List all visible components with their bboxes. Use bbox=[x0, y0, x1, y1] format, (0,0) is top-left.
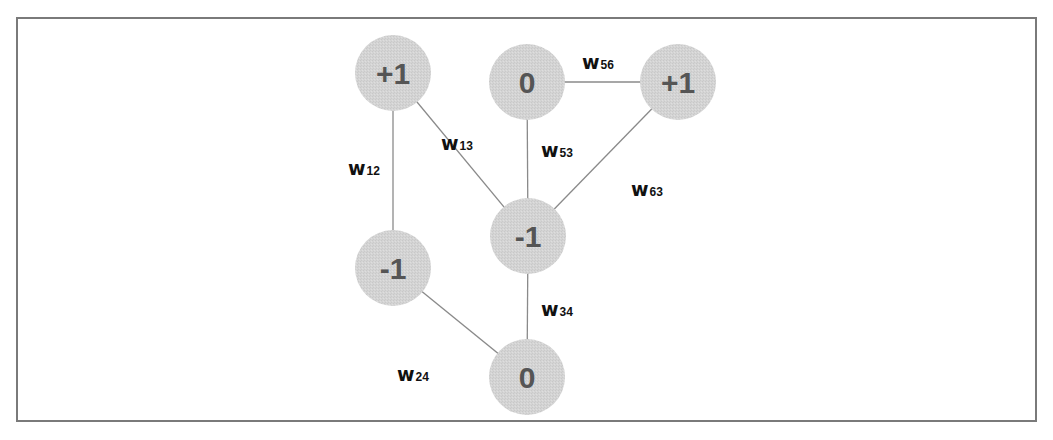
edge-label-subscript: 56 bbox=[601, 58, 615, 72]
edge-label-w34: w34 bbox=[541, 298, 573, 320]
node-4: 0 bbox=[489, 339, 565, 415]
node-state-label: +1 bbox=[376, 57, 410, 90]
node-state-label: -1 bbox=[515, 220, 542, 253]
edge-label-subscript: 13 bbox=[460, 139, 474, 153]
node-state-label: -1 bbox=[380, 252, 407, 285]
node-2: -1 bbox=[355, 230, 431, 306]
edge-label-subscript: 53 bbox=[560, 146, 574, 160]
node-5: 0 bbox=[489, 44, 565, 120]
edge-label-w12: w12 bbox=[348, 157, 380, 179]
node-state-label: +1 bbox=[661, 66, 695, 99]
node-1: +1 bbox=[355, 35, 431, 111]
nodes-layer: +1-1-100+1 bbox=[355, 35, 716, 415]
edge-label-subscript: 34 bbox=[560, 305, 574, 319]
node-state-label: 0 bbox=[519, 361, 536, 394]
network-graph: w12w13w53w56w63w34w24 +1-1-100+1 bbox=[0, 0, 1053, 440]
edge-label-w56: w56 bbox=[582, 51, 614, 73]
node-6: +1 bbox=[640, 44, 716, 120]
edge-label-w24: w24 bbox=[397, 363, 429, 385]
node-state-label: 0 bbox=[519, 66, 536, 99]
edge-label-w53: w53 bbox=[541, 139, 573, 161]
node-3: -1 bbox=[490, 198, 566, 274]
edge-label-w13: w13 bbox=[441, 132, 473, 154]
edge-label-subscript: 63 bbox=[650, 185, 664, 199]
edge-label-subscript: 24 bbox=[416, 370, 430, 384]
edge-label-w63: w63 bbox=[631, 178, 663, 200]
edge-label-subscript: 12 bbox=[367, 164, 381, 178]
